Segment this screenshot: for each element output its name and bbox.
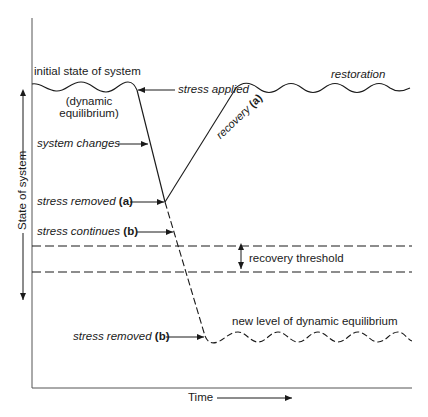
dynamic-equilibrium-label-line2: equilibrium) — [52, 108, 126, 120]
restoration-label: restoration — [331, 69, 385, 81]
x-axis-label: Time — [188, 392, 213, 404]
system-changes-label: system changes — [37, 138, 120, 150]
stress-applied-label: stress applied — [178, 84, 249, 96]
diagram-graphics — [0, 0, 428, 417]
stress-continues-label: stress continues (b) — [37, 226, 138, 238]
stress-removed-b-tag: (b) — [155, 330, 170, 342]
pointer-arrows — [118, 90, 204, 337]
initial-equilibrium-wave — [32, 82, 137, 92]
new-equilibrium-label: new level of dynamic equilibrium — [232, 316, 398, 328]
recovery-line — [165, 88, 236, 202]
restoration-wave — [236, 84, 410, 93]
new-equilibrium-wave — [205, 332, 412, 343]
stress-removed-b-label: stress removed (b) — [73, 331, 170, 343]
stress-response-diagram: initial state of system (dynamic equilib… — [0, 0, 428, 417]
recovery-threshold-label: recovery threshold — [249, 253, 344, 265]
recovery-threshold-lines — [32, 246, 412, 272]
stress-continues-line — [165, 202, 205, 336]
stress-removed-a-label: stress removed (a) — [37, 196, 133, 208]
dynamic-equilibrium-label-line1: (dynamic — [52, 96, 126, 108]
system-change-line — [137, 90, 165, 202]
stress-removed-a-tag: (a) — [119, 195, 133, 207]
stress-removed-a-text: stress removed — [37, 195, 116, 207]
y-axis-label: State of system — [17, 151, 29, 230]
stress-removed-b-text: stress removed — [73, 330, 152, 342]
initial-state-label: initial state of system — [34, 66, 141, 78]
stress-continues-text: stress continues — [37, 225, 120, 237]
stress-continues-tag: (b) — [123, 225, 138, 237]
